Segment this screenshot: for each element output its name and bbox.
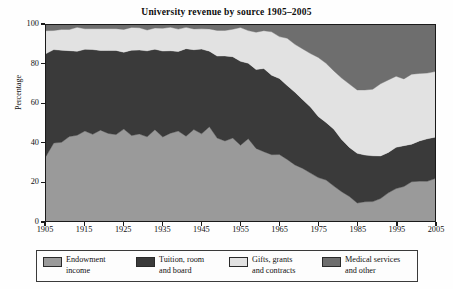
x-tick-1985: 1985 <box>338 225 378 234</box>
y-tick-100: 100 <box>1 19 39 28</box>
legend-item-2[interactable]: Gifts, grantsand contracts <box>229 255 322 276</box>
legend-item-0[interactable]: Endowmentincome <box>43 255 136 276</box>
x-tick-mark <box>318 222 319 226</box>
legend-label: Tuition, roomand board <box>159 255 204 276</box>
x-tick-mark <box>357 222 358 226</box>
chart-legend: EndowmentincomeTuition, roomand boardGif… <box>36 250 418 282</box>
legend-swatch-icon <box>229 257 248 267</box>
x-tick-1955: 1955 <box>221 225 261 234</box>
legend-swatch-icon <box>43 257 62 267</box>
x-tick-1905: 1905 <box>25 225 65 234</box>
legend-label-line1: Gifts, grants <box>252 255 295 266</box>
legend-label-line2: and other <box>345 266 400 277</box>
legend-label: Gifts, grantsand contracts <box>252 255 295 276</box>
x-tick-1925: 1925 <box>103 225 143 234</box>
legend-label-line2: and board <box>159 266 204 277</box>
x-tick-mark <box>44 222 45 226</box>
legend-item-3[interactable]: Medical servicesand other <box>322 255 415 276</box>
legend-label-line1: Medical services <box>345 255 400 266</box>
x-tick-mark <box>201 222 202 226</box>
chart-title: University revenue by source 1905–2005 <box>0 7 453 17</box>
x-tick-1975: 1975 <box>299 225 339 234</box>
x-tick-1995: 1995 <box>377 225 417 234</box>
y-tick-40: 40 <box>1 138 39 147</box>
stacked-area-svg <box>46 25 435 221</box>
y-tick-80: 80 <box>1 59 39 68</box>
x-tick-1945: 1945 <box>181 225 221 234</box>
legend-swatch-icon <box>322 257 341 267</box>
x-tick-mark <box>435 222 436 226</box>
legend-swatch-icon <box>136 257 155 267</box>
x-tick-1935: 1935 <box>142 225 182 234</box>
x-tick-mark <box>123 222 124 226</box>
x-tick-mark <box>240 222 241 226</box>
x-tick-mark <box>396 222 397 226</box>
chart-figure: University revenue by source 1905–2005 P… <box>0 0 453 289</box>
legend-label: Medical servicesand other <box>345 255 400 276</box>
x-tick-2005: 2005 <box>416 225 453 234</box>
legend-label-line1: Tuition, room <box>159 255 204 266</box>
y-tick-20: 20 <box>1 177 39 186</box>
legend-item-1[interactable]: Tuition, roomand board <box>136 255 229 276</box>
x-tick-mark <box>162 222 163 226</box>
plot-area <box>45 24 436 222</box>
legend-label-line2: and contracts <box>252 266 295 277</box>
x-tick-mark <box>279 222 280 226</box>
legend-label-line2: income <box>66 266 106 277</box>
y-tick-60: 60 <box>1 98 39 107</box>
legend-label-line1: Endowment <box>66 255 106 266</box>
x-tick-mark <box>84 222 85 226</box>
x-tick-1915: 1915 <box>64 225 104 234</box>
legend-label: Endowmentincome <box>66 255 106 276</box>
x-tick-1965: 1965 <box>260 225 300 234</box>
